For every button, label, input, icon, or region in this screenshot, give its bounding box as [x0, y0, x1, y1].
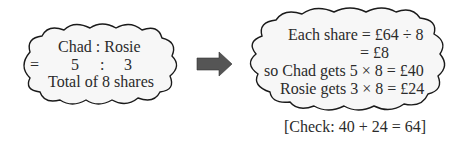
share-value-line: = £8	[360, 44, 389, 62]
check-line: [Check: 40 + 24 = 64]	[284, 118, 426, 136]
each-share-line: Each share = £64 ÷ 8	[288, 26, 424, 44]
ratio-header: Chad : Rosie	[58, 38, 141, 56]
ratio-colon: :	[100, 56, 104, 74]
total-shares: Total of 8 shares	[48, 73, 154, 91]
equals-sign: =	[30, 56, 39, 74]
rosie-gets-line: Rosie gets 3 × 8 = £24	[280, 80, 424, 98]
right-arrow-icon	[197, 52, 232, 76]
ratio-value-rosie: 3	[124, 56, 132, 74]
ratio-value-chad: 5	[71, 56, 79, 74]
chad-gets-line: so Chad gets 5 × 8 = £40	[264, 62, 424, 80]
